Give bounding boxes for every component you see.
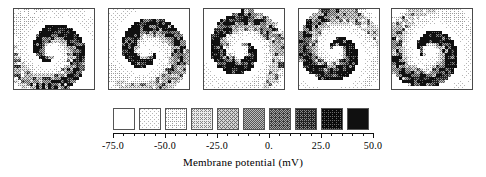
spiral-wave-figure: -75.0-50.0-25.00.25.050.0 Membrane poten… bbox=[0, 0, 486, 177]
colorbar-swatch-fill-4 bbox=[192, 109, 212, 129]
colorbar-tick-minor bbox=[331, 133, 332, 136]
colorbar-tick-major-4 bbox=[269, 133, 270, 138]
panel-frame-4 bbox=[298, 8, 380, 90]
membrane-potential-map-5 bbox=[392, 9, 472, 89]
colorbar-tick-minor bbox=[248, 133, 249, 136]
membrane-potential-map-2 bbox=[109, 9, 189, 89]
panel-row bbox=[0, 0, 486, 96]
colorbar-tick-minor bbox=[363, 133, 364, 136]
colorbar-tick-labels: -75.0-50.0-25.00.25.050.0 bbox=[91, 139, 395, 153]
colorbar-tick-minor bbox=[123, 133, 124, 136]
colorbar-tick-label-6: 50.0 bbox=[351, 139, 395, 153]
colorbar-tick-minor bbox=[238, 133, 239, 136]
colorbar-tick-minor bbox=[342, 133, 343, 136]
panel-frame-3 bbox=[203, 8, 285, 90]
colorbar-tick-minor bbox=[352, 133, 353, 136]
colorbar-tick-minor bbox=[311, 133, 312, 136]
panel-frame-1 bbox=[13, 8, 95, 90]
colorbar-tick-minor bbox=[227, 133, 228, 136]
colorbar-swatch-3 bbox=[165, 108, 187, 130]
colorbar-tick-major-5 bbox=[321, 133, 322, 138]
colorbar-swatch-10 bbox=[347, 108, 369, 130]
colorbar-tick-minor bbox=[259, 133, 260, 136]
colorbar-swatch-fill-2 bbox=[140, 109, 160, 129]
colorbar-swatch-4 bbox=[191, 108, 213, 130]
colorbar-tick-major-3 bbox=[217, 133, 218, 138]
colorbar-swatch-8 bbox=[295, 108, 317, 130]
colorbar-tick-major-1 bbox=[113, 133, 114, 138]
colorbar-tick-minor bbox=[279, 133, 280, 136]
colorbar-tick-major-2 bbox=[165, 133, 166, 138]
colorbar-tick-label-2: -50.0 bbox=[143, 139, 187, 153]
colorbar-swatch-fill-8 bbox=[296, 109, 316, 129]
colorbar-tick-minor bbox=[175, 133, 176, 136]
colorbar-axis-title: Membrane potential (mV) bbox=[73, 155, 413, 169]
colorbar-swatch-6 bbox=[243, 108, 265, 130]
colorbar-swatch-1 bbox=[113, 108, 135, 130]
colorbar-swatch-fill-5 bbox=[218, 109, 238, 129]
colorbar-tick-minor bbox=[196, 133, 197, 136]
colorbar-swatches bbox=[113, 108, 373, 130]
colorbar-swatch-fill-1 bbox=[114, 109, 134, 129]
colorbar-swatch-2 bbox=[139, 108, 161, 130]
colorbar-tick-minor bbox=[207, 133, 208, 136]
colorbar-tick-label-3: -25.0 bbox=[195, 139, 239, 153]
axis-line bbox=[113, 133, 373, 134]
colorbar-swatch-fill-10 bbox=[348, 109, 368, 129]
colorbar-swatch-fill-6 bbox=[244, 109, 264, 129]
colorbar-swatch-fill-7 bbox=[270, 109, 290, 129]
colorbar-swatch-7 bbox=[269, 108, 291, 130]
colorbar-tick-major-6 bbox=[373, 133, 374, 138]
colorbar: -75.0-50.0-25.00.25.050.0 Membrane poten… bbox=[113, 108, 373, 177]
colorbar-tick-minor bbox=[134, 133, 135, 136]
colorbar-swatch-9 bbox=[321, 108, 343, 130]
membrane-potential-map-3 bbox=[204, 9, 284, 89]
membrane-potential-map-1 bbox=[14, 9, 94, 89]
colorbar-swatch-fill-9 bbox=[322, 109, 342, 129]
colorbar-tick-minor bbox=[155, 133, 156, 136]
colorbar-tick-minor bbox=[186, 133, 187, 136]
colorbar-tick-label-5: 25.0 bbox=[299, 139, 343, 153]
colorbar-tick-label-4: 0. bbox=[247, 139, 291, 153]
colorbar-swatch-5 bbox=[217, 108, 239, 130]
colorbar-tick-label-1: -75.0 bbox=[91, 139, 135, 153]
colorbar-swatch-fill-3 bbox=[166, 109, 186, 129]
colorbar-tick-minor bbox=[290, 133, 291, 136]
colorbar-tick-minor bbox=[144, 133, 145, 136]
colorbar-tick-minor bbox=[300, 133, 301, 136]
membrane-potential-map-4 bbox=[299, 9, 379, 89]
panel-frame-5 bbox=[391, 8, 473, 90]
panel-frame-2 bbox=[108, 8, 190, 90]
